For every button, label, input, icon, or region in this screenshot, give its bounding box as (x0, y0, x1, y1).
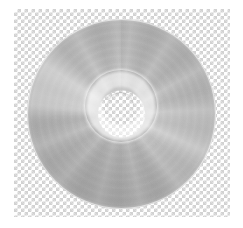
image-canvas: CD / DVD optical disc, label side up, on… (0, 0, 243, 228)
disc-render-group (0, 0, 243, 228)
spindle-hole (107, 92, 134, 119)
